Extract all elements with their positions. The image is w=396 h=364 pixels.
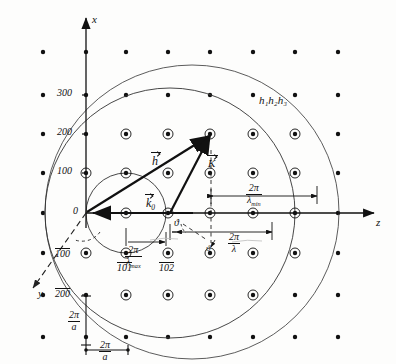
lambda-max-denominator: λmax [125,257,142,270]
x-tick-neg-200: 200 [55,289,70,299]
theta-angle-label-2: ϑ [206,244,210,253]
spacing-vertical-fraction: 2π a [68,310,80,332]
x-tick-neg-100-text: 100 [55,249,70,259]
h-vector-label: h [152,155,158,167]
K-vector-label: K [208,158,215,169]
lambda-min-measure-line [208,186,317,204]
x-tick-200: 200 [57,127,72,137]
spacing-horizontal-fraction: 2π a [99,340,111,362]
lattice-spacing-horizontal-label: 2π a [99,340,111,362]
lattice-dots-circled [81,129,300,300]
hkl-general-text: h₁h₂h₃ [259,94,287,106]
lambda-max-measure-label: 2π λmax [125,245,142,269]
lambda-min-fraction: 2π λmin [246,183,262,207]
lambda-min-den-sub: min [251,200,260,207]
lambda-measure-label: 2π λ [228,232,240,254]
lattice-spacing-vertical-label: 2π a [68,310,80,332]
K-vector-label-text: K [208,158,215,169]
hkl-general-label: h₁h₂h₃ [259,95,287,106]
lambda-numerator: 2π [228,232,240,244]
spacing-vertical-numerator: 2π [68,310,80,322]
lambda-denominator: λ [228,244,240,255]
lambda-max-den-sub: max [130,262,140,269]
lambda-measure-line [170,222,272,240]
spacing-horizontal-numerator: 2π [99,340,111,352]
theta-angle-label: ϑ [174,218,179,228]
point-102-label: 102 [159,263,174,273]
z-axis-label: z [376,217,380,228]
x-axis-label: x [92,14,97,25]
diagram-canvas [0,0,396,364]
x-tick-100: 100 [57,166,72,176]
spacing-horizontal-denominator: a [99,352,111,363]
x-tick-neg-200-text: 200 [55,289,70,299]
lambda-min-measure-label: 2π λmin [246,183,262,207]
theta-lower-arrow [211,240,215,247]
lattice-scale-vertical [81,296,91,345]
point-102-text: 102 [159,263,174,273]
spacing-vertical-denominator: a [68,322,80,333]
lambda-min-denominator: λmin [246,195,262,208]
ewald-diagram: x z y 0 300 200 100 100 200 h K k0 ϑ ϑ h… [0,0,396,364]
k0-vector-label-text: k [146,197,151,209]
scattering-construction-dashes [183,150,211,243]
k0-vector-subscript: 0 [151,203,155,212]
x-tick-neg-100: 100 [55,249,70,259]
h-vector-label-text: h [152,155,158,167]
k0-vector-label: k0 [146,197,155,212]
scan-artifacts [150,238,262,242]
x-tick-300: 300 [57,88,72,98]
lambda-fraction: 2π λ [228,232,240,254]
lambda-max-fraction: 2π λmax [125,245,142,269]
origin-label: 0 [73,206,78,216]
y-axis-label: y [38,288,43,299]
